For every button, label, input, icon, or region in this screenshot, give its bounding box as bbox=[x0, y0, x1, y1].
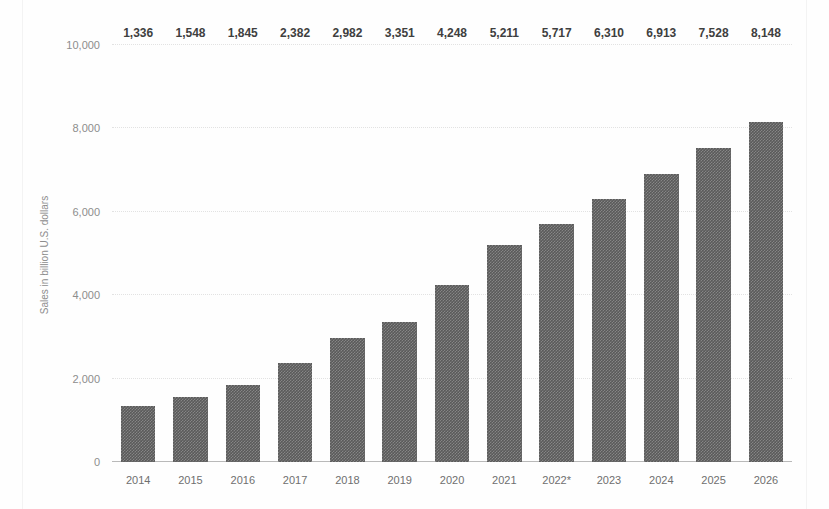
bar[interactable]: 6,913 bbox=[644, 174, 679, 462]
bar-value-label: 8,148 bbox=[751, 26, 781, 40]
bar[interactable]: 2,982 bbox=[330, 338, 365, 462]
page-right-rule bbox=[806, 0, 807, 509]
bar-slot: 1,336 bbox=[112, 45, 164, 462]
bar-value-label: 5,717 bbox=[542, 26, 572, 40]
x-axis-tick-label: 2017 bbox=[269, 462, 321, 502]
bar-slot: 6,310 bbox=[583, 45, 635, 462]
x-axis-tick-label: 2018 bbox=[321, 462, 373, 502]
x-axis-tick-label: 2014 bbox=[112, 462, 164, 502]
y-axis-tick-label: 2,000 bbox=[72, 373, 100, 385]
bar[interactable]: 1,336 bbox=[121, 406, 156, 462]
bar-slot: 1,548 bbox=[164, 45, 216, 462]
bar-value-label: 1,336 bbox=[123, 26, 153, 40]
page-left-rule bbox=[22, 0, 23, 509]
bar-value-label: 6,913 bbox=[646, 26, 676, 40]
bar-value-label: 1,548 bbox=[175, 26, 205, 40]
bar-slot: 8,148 bbox=[740, 45, 792, 462]
bar-slot: 4,248 bbox=[426, 45, 478, 462]
bar-slot: 7,528 bbox=[687, 45, 739, 462]
x-axis-tick-label: 2025 bbox=[687, 462, 739, 502]
bar-value-label: 5,211 bbox=[490, 26, 519, 40]
bar-slot: 3,351 bbox=[374, 45, 426, 462]
watermark-text bbox=[811, 28, 825, 328]
bar-value-label: 1,845 bbox=[228, 26, 258, 40]
bar-slot: 5,717 bbox=[531, 45, 583, 462]
bar[interactable]: 8,148 bbox=[749, 122, 784, 462]
bar[interactable]: 1,548 bbox=[173, 397, 208, 462]
plot-area: 02,0004,0006,0008,00010,000 1,3361,5481,… bbox=[112, 45, 792, 462]
bar-slot: 2,982 bbox=[321, 45, 373, 462]
bar-slot: 6,913 bbox=[635, 45, 687, 462]
x-axis-tick-label: 2024 bbox=[635, 462, 687, 502]
x-axis-tick-label: 2026 bbox=[740, 462, 792, 502]
x-axis-tick-label: 2016 bbox=[217, 462, 269, 502]
bar[interactable]: 5,717 bbox=[539, 224, 574, 462]
x-axis-tick-label: 2019 bbox=[374, 462, 426, 502]
x-axis-tick-label: 2023 bbox=[583, 462, 635, 502]
bar-value-label: 4,248 bbox=[437, 26, 467, 40]
bar[interactable]: 7,528 bbox=[696, 148, 731, 462]
bar-value-label: 2,982 bbox=[332, 26, 362, 40]
y-axis-tick-label: 8,000 bbox=[72, 122, 100, 134]
bar-value-label: 3,351 bbox=[385, 26, 415, 40]
bar[interactable]: 6,310 bbox=[592, 199, 627, 462]
x-axis-tick-label: 2015 bbox=[164, 462, 216, 502]
x-axis-tick-label: 2021 bbox=[478, 462, 530, 502]
bar-value-label: 7,528 bbox=[699, 26, 729, 40]
bar[interactable]: 1,845 bbox=[226, 385, 261, 462]
y-axis-tick-label: 4,000 bbox=[72, 289, 100, 301]
bar-chart: Sales in billion U.S. dollars 02,0004,00… bbox=[0, 0, 829, 509]
x-axis-tick-label: 2022* bbox=[531, 462, 583, 502]
bar[interactable]: 5,211 bbox=[487, 245, 522, 462]
bar-slot: 1,845 bbox=[217, 45, 269, 462]
x-axis-tick-label: 2020 bbox=[426, 462, 478, 502]
bar-slot: 5,211 bbox=[478, 45, 530, 462]
bar-value-label: 2,382 bbox=[280, 26, 310, 40]
bar-series: 1,3361,5481,8452,3822,9823,3514,2485,211… bbox=[112, 45, 792, 462]
bar[interactable]: 3,351 bbox=[382, 322, 417, 462]
bar-slot: 2,382 bbox=[269, 45, 321, 462]
bar[interactable]: 4,248 bbox=[435, 285, 470, 462]
y-axis-tick-label: 10,000 bbox=[66, 39, 100, 51]
y-axis-tick-label: 0 bbox=[94, 456, 100, 468]
bar-value-label: 6,310 bbox=[594, 26, 624, 40]
x-axis-ticks: 201420152016201720182019202020212022*202… bbox=[112, 462, 792, 502]
y-axis-tick-label: 6,000 bbox=[72, 206, 100, 218]
y-axis-title: Sales in billion U.S. dollars bbox=[39, 195, 50, 313]
bar[interactable]: 2,382 bbox=[278, 363, 313, 462]
